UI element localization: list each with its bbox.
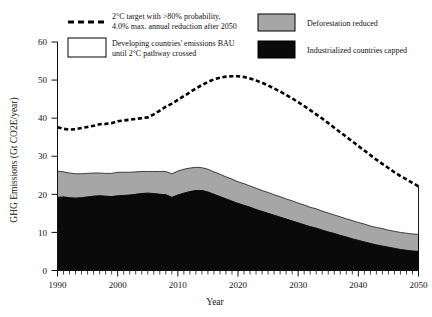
legend-bau-line2: until 2°C pathway crossed xyxy=(112,49,196,58)
x-tick-label: 2010 xyxy=(169,280,188,290)
ghg-emissions-area-chart: 2°C target with >80% probability, 4.0% m… xyxy=(0,0,432,317)
x-tick-label: 2020 xyxy=(229,280,248,290)
y-tick-label: 60 xyxy=(38,37,48,47)
gray-box-swatch-icon xyxy=(258,14,295,31)
legend-item-bau: Developing countries' emissions BAU unti… xyxy=(68,38,235,58)
y-tick-label: 20 xyxy=(38,190,48,200)
plot-area xyxy=(58,76,419,270)
x-axis-ticks: 1990200020102020203020402050 xyxy=(49,271,429,290)
legend-target-line2: 4.0% max. annual reduction after 2050 xyxy=(112,22,237,31)
legend-item-deforestation: Deforestation reduced xyxy=(258,14,378,31)
legend-item-target: 2°C target with >80% probability, 4.0% m… xyxy=(68,12,237,31)
y-axis-title: GHG Emissions (Gt CO2E/year) xyxy=(9,97,20,222)
x-tick-label: 2030 xyxy=(289,280,308,290)
y-axis-ticks: 0102030405060 xyxy=(38,37,58,276)
legend-deforestation-label: Deforestation reduced xyxy=(307,19,378,28)
x-tick-label: 2040 xyxy=(349,280,368,290)
x-tick-label: 2000 xyxy=(109,280,128,290)
legend-target-line1: 2°C target with >80% probability, xyxy=(112,12,221,21)
figure-caption-cropped xyxy=(0,305,432,317)
x-tick-label: 1990 xyxy=(49,280,68,290)
chart-figure: 2°C target with >80% probability, 4.0% m… xyxy=(0,0,432,317)
chart-legend: 2°C target with >80% probability, 4.0% m… xyxy=(68,12,407,58)
y-tick-label: 0 xyxy=(43,266,48,276)
legend-bau-line1: Developing countries' emissions BAU xyxy=(112,39,235,48)
y-tick-label: 10 xyxy=(38,228,48,238)
target-trajectory-dashed-line xyxy=(58,76,419,186)
y-tick-label: 50 xyxy=(38,75,48,85)
x-tick-label: 2050 xyxy=(410,280,429,290)
black-box-swatch-icon xyxy=(258,41,295,58)
legend-industrialized-label: Industrialized countries capped xyxy=(307,46,407,55)
white-box-swatch-icon xyxy=(68,38,106,57)
y-tick-label: 40 xyxy=(38,113,48,123)
y-tick-label: 30 xyxy=(38,151,48,161)
legend-item-industrialized: Industrialized countries capped xyxy=(258,41,407,58)
